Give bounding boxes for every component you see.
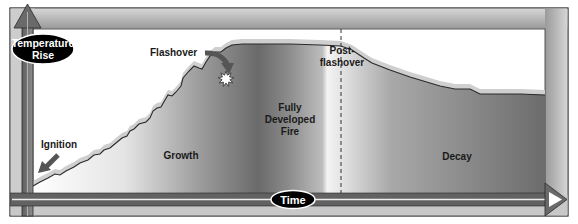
decay-label: Decay (442, 151, 472, 162)
post-flashover-label-line2: flashover (320, 57, 365, 68)
y-axis-label-pill: Temperature Rise (12, 34, 75, 64)
x-axis-label-pill: Time (271, 191, 315, 209)
y-axis-label-line1: Temperature (12, 37, 75, 49)
x-axis-label: Time (280, 194, 305, 206)
ignition-label: Ignition (41, 139, 77, 150)
fully-developed-label-line1: Fully (278, 102, 302, 113)
frame-right-band (545, 9, 567, 216)
fully-developed-label-line3: Fire (281, 126, 300, 137)
y-axis-label-line2: Rise (32, 49, 54, 61)
growth-label: Growth (164, 150, 199, 161)
flashover-label: Flashover (150, 47, 197, 58)
fully-developed-label-line2: Developed (265, 114, 316, 125)
post-flashover-label-line1: Post- (330, 45, 355, 56)
fire-development-diagram: Temperature Rise Time Ignition Growth Fl… (0, 0, 578, 224)
frame-top-band (11, 9, 568, 29)
